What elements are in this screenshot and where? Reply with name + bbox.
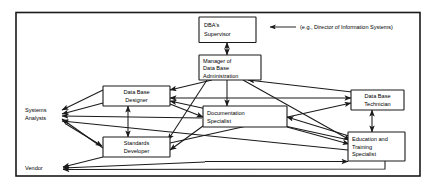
node-manager-dba-line-2: Data Base — [203, 65, 229, 71]
node-manager-dba-line-1: Manager of — [203, 58, 232, 64]
node-standards-developer-line-1: Standards — [124, 140, 150, 146]
external-label-systems-analysts-line-2: Analysts — [25, 115, 46, 121]
external-label-vendor: Vendor — [25, 165, 43, 171]
link-designer-analysts-2 — [62, 103, 103, 114]
node-dba-supervisor[interactable]: DBA's Supervisor — [199, 17, 256, 43]
node-education-training-specialist-line-3: Specialist — [352, 151, 376, 157]
node-documentation-specialist-line-1: Documentation — [207, 110, 245, 116]
link-standards-vendor — [63, 157, 103, 167]
link-designer-analysts — [62, 90, 103, 110]
node-data-base-designer[interactable]: Data Base Designer — [103, 86, 170, 106]
external-label-systems-analysts: Systems Analysts — [25, 107, 47, 121]
node-data-base-technician-line-1: Data Base — [364, 93, 390, 99]
node-documentation-specialist[interactable]: Documentation Specialist — [203, 106, 287, 127]
link-documentation-analysts — [62, 116, 202, 118]
link-designer-documentation — [170, 104, 203, 117]
external-label-systems-analysts-line-1: Systems — [25, 107, 47, 113]
node-manager-dba-line-3: Administration — [203, 73, 238, 79]
external-label-vendor-line-1: Vendor — [25, 165, 43, 171]
node-education-training-specialist-line-1: Education and — [352, 136, 388, 142]
node-data-base-technician-line-2: Technician — [364, 101, 390, 107]
link-documentation-vendor — [63, 162, 205, 168]
node-documentation-specialist-line-2: Specialist — [207, 118, 231, 124]
node-data-base-technician[interactable]: Data Base Technician — [351, 90, 404, 110]
node-education-training-specialist[interactable]: Education and Training Specialist — [348, 132, 405, 161]
link-documentation-education — [287, 127, 349, 144]
link-analysts-standards — [66, 124, 102, 146]
node-dba-supervisor-line-2: Supervisor — [204, 31, 231, 37]
node-data-base-designer-line-2: Designer — [125, 97, 148, 103]
node-data-base-designer-line-1: Data Base — [123, 89, 149, 95]
node-education-training-specialist-line-2: Training — [352, 144, 372, 150]
node-standards-developer[interactable]: Standards Developer — [103, 137, 170, 157]
node-manager-dba[interactable]: Manager of Data Base Administration — [199, 55, 261, 80]
org-chart-canvas: DBA's Supervisor (e.g., Director of Info… — [0, 0, 434, 192]
node-dba-supervisor-line-1: DBA's — [204, 22, 220, 28]
org-chart-diagram: DBA's Supervisor (e.g., Director of Info… — [0, 0, 434, 192]
link-education-vendor — [63, 161, 385, 170]
link-technician-manager — [248, 80, 352, 92]
node-standards-developer-line-2: Developer — [124, 148, 150, 154]
supervisor-note: (e.g., Director of Information Systems) — [300, 24, 393, 30]
